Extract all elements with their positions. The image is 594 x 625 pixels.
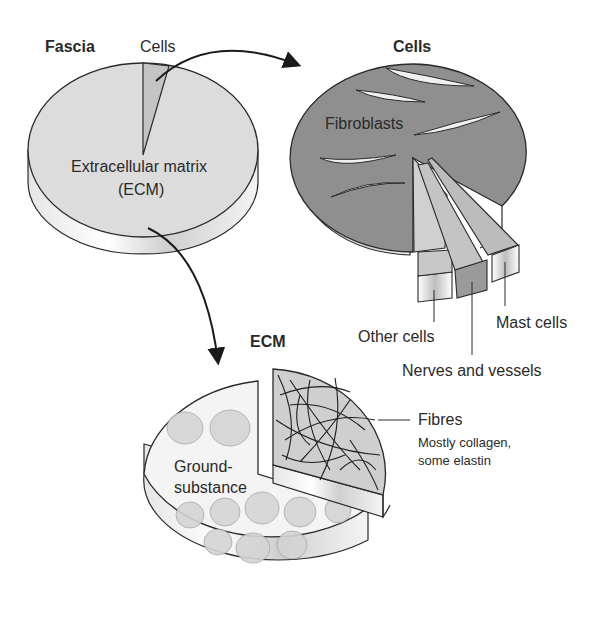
diagram-graphics [0,0,594,625]
ecm-pie-title: ECM [250,333,286,351]
fibroblasts-label: Fibroblasts [325,115,403,133]
nerves-vessels-label: Nerves and vessels [402,362,542,380]
cells-pie-title: Cells [393,38,431,56]
ecm-label-line1: Extracellular matrix [71,158,207,176]
fibres-desc-line1: Mostly collagen, [418,434,511,451]
fascia-cells-label: Cells [140,38,176,56]
fibres-label: Fibres [418,411,462,429]
ground-substance-line1: Ground- [174,458,233,476]
ecm-label-line2: (ECM) [118,181,164,199]
cells-pie [290,64,526,355]
ground-substance-line2: substance [174,479,247,497]
fascia-composition-diagram: Fascia Cells Extracellular matrix (ECM) … [0,0,594,625]
fibres-desc-line2: some elastin [418,452,491,469]
fascia-title: Fascia [45,38,95,56]
other-cells-label: Other cells [358,328,434,346]
mast-cells-label: Mast cells [496,314,567,332]
